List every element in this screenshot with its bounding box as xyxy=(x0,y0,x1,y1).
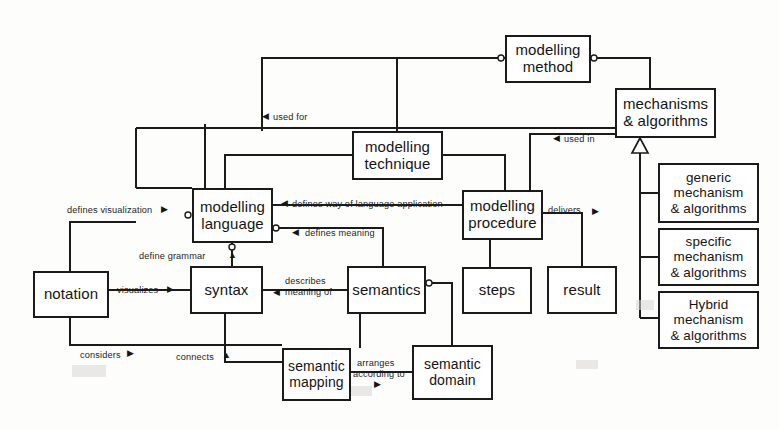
node-modelling-language[interactable]: modelling language xyxy=(192,188,273,243)
node-line: method xyxy=(523,59,574,76)
edge-label-visualizes: visualizes xyxy=(117,285,158,295)
node-line: semantic xyxy=(424,357,481,373)
node-line: semantics xyxy=(352,282,420,299)
edge-label-defines-visualization: defines visualization xyxy=(67,205,152,215)
node-line: procedure xyxy=(468,215,536,232)
node-line: language xyxy=(201,216,264,233)
node-line: generic xyxy=(686,170,731,185)
arrow-connects: ▲ xyxy=(222,351,231,360)
node-specific-mechanism[interactable]: specific mechanism & algorithms xyxy=(658,228,759,286)
edge-label-describes: describes xyxy=(285,277,326,286)
node-line: & algorithms xyxy=(670,265,746,280)
node-modelling-method[interactable]: modelling method xyxy=(505,35,591,83)
node-line: mechanisms xyxy=(623,96,708,113)
paper-speck xyxy=(576,360,598,369)
node-line: modelling xyxy=(470,198,535,215)
node-semantic-domain[interactable]: semantic domain xyxy=(412,345,493,400)
node-syntax[interactable]: syntax xyxy=(190,266,263,314)
arrow-defines-meaning: ◀ xyxy=(292,228,299,237)
node-semantics[interactable]: semantics xyxy=(347,266,426,314)
node-steps[interactable]: steps xyxy=(462,267,532,314)
node-line: technique xyxy=(365,156,431,173)
edge-label-defines-way-of-language-application: defines way of language application xyxy=(292,199,443,209)
node-hybrid-mechanism[interactable]: Hybrid mechanism & algorithms xyxy=(658,291,759,349)
node-line: modelling xyxy=(365,139,430,156)
edge-label-connects: connects xyxy=(176,352,214,362)
diagram-canvas: modelling method mechanisms & algorithms… xyxy=(0,0,779,429)
node-line: result xyxy=(563,282,600,299)
node-line: mechanism xyxy=(674,312,744,327)
paper-speck xyxy=(72,365,106,377)
node-semantic-mapping[interactable]: semantic mapping xyxy=(282,348,351,401)
edge-label-used-in: used in xyxy=(564,134,595,144)
arrow-arranges-according-to: ▶ xyxy=(374,380,381,389)
association-dot xyxy=(273,225,279,231)
arrow-defines-visualization: ▶ xyxy=(161,205,168,214)
node-mechanisms-algorithms[interactable]: mechanisms & algorithms xyxy=(615,88,716,138)
node-generic-mechanism[interactable]: generic mechanism & algorithms xyxy=(658,163,759,223)
node-line: Hybrid xyxy=(689,297,729,312)
node-line: & algorithms xyxy=(670,201,746,216)
node-line: notation xyxy=(44,286,98,303)
association-dot xyxy=(426,280,432,286)
arrow-considers: ▶ xyxy=(127,349,134,358)
association-dot xyxy=(185,212,191,218)
edge-label-considers: considers xyxy=(80,350,121,360)
node-modelling-procedure[interactable]: modelling procedure xyxy=(462,190,543,240)
association-dot xyxy=(591,55,597,61)
node-line: syntax xyxy=(205,282,249,299)
node-notation[interactable]: notation xyxy=(33,271,109,318)
node-line: domain xyxy=(429,373,476,389)
node-line: specific xyxy=(686,234,732,249)
node-line: modelling xyxy=(515,42,580,59)
edge-label-defines-meaning: defines meaning xyxy=(305,228,375,238)
arrow-define-grammar: ▲ xyxy=(228,251,237,260)
node-line: & algorithms xyxy=(670,328,746,343)
association-dot xyxy=(498,55,504,61)
arrow-visualizes: ▶ xyxy=(167,285,174,294)
arrow-used-in: ◀ xyxy=(553,134,560,143)
node-modelling-technique[interactable]: modelling technique xyxy=(352,131,443,180)
edge-label-meaning-of: meaning of xyxy=(285,288,332,297)
node-line: semantic xyxy=(288,359,345,375)
node-line: modelling xyxy=(200,199,265,216)
edge-label-define-grammar: define grammar xyxy=(139,251,205,261)
arrow-delivers: ▶ xyxy=(592,207,599,216)
node-line: mechanism xyxy=(674,249,744,264)
generalization-triangle xyxy=(632,138,648,153)
node-line: steps xyxy=(479,282,515,299)
arrow-describes-meaning-of: ◀ xyxy=(273,288,280,297)
paper-speck xyxy=(636,300,654,310)
edge-label-according-to: according to xyxy=(353,370,405,379)
arrow-used-for: ◀ xyxy=(262,112,269,121)
arrow-defines-way-of-language-application: ◀ xyxy=(281,199,288,208)
edge-label-arranges: arranges xyxy=(357,359,394,368)
edge-label-delivers: delivers xyxy=(548,205,581,215)
node-line: & algorithms xyxy=(623,113,708,130)
node-result[interactable]: result xyxy=(547,266,617,314)
node-line: mechanism xyxy=(674,185,744,200)
node-line: mapping xyxy=(289,375,343,391)
edge-label-used-for: used for xyxy=(273,112,307,122)
